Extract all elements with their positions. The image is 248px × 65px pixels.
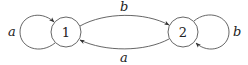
state-diagram: a b a b 1 2 — [0, 0, 248, 65]
edge-1-to-2-b — [80, 15, 169, 26]
node-2-label: 2 — [179, 25, 187, 40]
edge-loop-1-a — [20, 15, 55, 49]
node-1-label: 1 — [62, 25, 70, 40]
edge-label-loop-2: b — [233, 24, 241, 39]
edge-label-loop-1: a — [8, 24, 16, 39]
edge-loop-2-b — [194, 15, 229, 49]
edge-label-2-to-1: a — [120, 50, 128, 65]
edge-2-to-1-a — [80, 39, 169, 49]
edge-label-1-to-2: b — [120, 0, 128, 14]
node-1: 1 — [51, 17, 81, 47]
node-2: 2 — [168, 17, 198, 47]
